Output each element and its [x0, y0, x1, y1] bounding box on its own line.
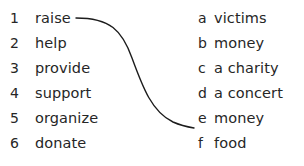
item-marker: 1	[10, 10, 35, 26]
item-text: a charity	[214, 60, 279, 76]
item-text: support	[35, 85, 91, 101]
list-item[interactable]: b money	[198, 30, 302, 55]
item-text: food	[214, 135, 246, 151]
list-item[interactable]: 1 raise	[10, 5, 140, 30]
list-item[interactable]: 5 organize	[10, 105, 140, 130]
item-text: money	[214, 35, 264, 51]
list-item[interactable]: c a charity	[198, 55, 302, 80]
list-item[interactable]: 3 provide	[10, 55, 140, 80]
list-item[interactable]: 2 help	[10, 30, 140, 55]
item-text: help	[35, 35, 67, 51]
list-item[interactable]: f food	[198, 130, 302, 155]
item-text: a concert	[214, 85, 283, 101]
item-marker: a	[198, 10, 214, 26]
item-marker: e	[198, 110, 214, 126]
list-item[interactable]: e money	[198, 105, 302, 130]
item-marker: d	[198, 85, 214, 101]
list-item[interactable]: a victims	[198, 5, 302, 30]
item-text: money	[214, 110, 264, 126]
list-item[interactable]: 6 donate	[10, 130, 140, 155]
item-marker: 2	[10, 35, 35, 51]
item-text: provide	[35, 60, 90, 76]
item-text: organize	[35, 110, 98, 126]
right-column: a victims b money c a charity d a concer…	[198, 0, 302, 155]
list-item[interactable]: 4 support	[10, 80, 140, 105]
left-column: 1 raise 2 help 3 provide 4 support 5 org…	[10, 0, 140, 155]
item-marker: 5	[10, 110, 35, 126]
item-marker: c	[198, 60, 214, 76]
item-text: donate	[35, 135, 86, 151]
list-item[interactable]: d a concert	[198, 80, 302, 105]
item-marker: 3	[10, 60, 35, 76]
item-text: raise	[35, 10, 71, 26]
item-marker: b	[198, 35, 214, 51]
item-marker: f	[198, 135, 214, 151]
item-marker: 4	[10, 85, 35, 101]
item-marker: 6	[10, 135, 35, 151]
matching-exercise: 1 raise 2 help 3 provide 4 support 5 org…	[0, 0, 304, 166]
item-text: victims	[214, 10, 267, 26]
